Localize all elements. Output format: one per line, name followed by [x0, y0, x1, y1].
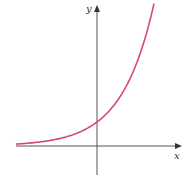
x-axis — [16, 143, 182, 149]
x-axis-label: x — [174, 150, 180, 161]
y-axis — [94, 5, 100, 175]
exponential-curve — [16, 4, 154, 145]
y-axis-arrow-icon — [94, 5, 100, 12]
x-axis-arrow-icon — [175, 143, 182, 149]
y-axis-label: y — [85, 3, 92, 14]
chart-canvas: x y — [0, 0, 187, 183]
